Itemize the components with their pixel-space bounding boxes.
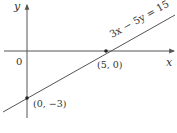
graph-canvas: y x 0 (5, 0) (0, −3) 3x − 5y = 15	[0, 0, 177, 133]
y-axis-label: y	[13, 0, 21, 13]
x-axis-label: x	[166, 56, 173, 69]
equation-line	[3, 15, 175, 112]
equation-label: 3x − 5y = 15	[108, 0, 171, 40]
x-intercept-point	[104, 49, 108, 53]
y-intercept-point	[25, 96, 29, 100]
origin-label: 0	[16, 56, 22, 67]
x-intercept-label: (5, 0)	[97, 59, 123, 70]
y-intercept-label: (0, −3)	[33, 98, 67, 109]
